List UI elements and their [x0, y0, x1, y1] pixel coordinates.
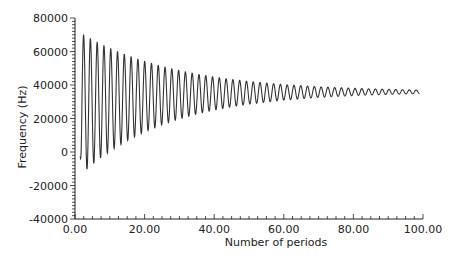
y-tick-label: 0: [61, 146, 68, 159]
x-tick-label: 20.00: [129, 223, 161, 236]
y-tick-label: 60000: [33, 46, 68, 59]
line-chart: -40000-20000020000400006000080000 0.0020…: [0, 0, 456, 264]
x-axis: 0.0020.0040.0060.0080.00100.00: [63, 214, 443, 236]
x-tick-label: 80.00: [338, 223, 370, 236]
y-tick-label: 80000: [33, 12, 68, 25]
y-axis-title: Frequency (Hz): [16, 86, 29, 169]
data-line: [80, 35, 419, 169]
x-tick-label: 40.00: [198, 223, 230, 236]
y-tick-label: 40000: [33, 79, 68, 92]
y-tick-label: -20000: [29, 180, 68, 193]
x-tick-label: 60.00: [268, 223, 300, 236]
y-axis: -40000-20000020000400006000080000: [29, 12, 75, 226]
x-axis-title: Number of periods: [225, 236, 328, 249]
x-tick-label: 0.00: [63, 223, 88, 236]
x-tick-label: 100.00: [404, 223, 443, 236]
y-tick-label: 20000: [33, 113, 68, 126]
